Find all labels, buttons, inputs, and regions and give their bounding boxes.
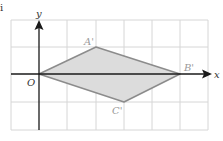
vertex-label-a-prime: A' [83, 36, 94, 47]
vertex-label-c-prime: C' [112, 105, 122, 116]
x-axis-label: x [214, 69, 220, 80]
y-axis-label: y [35, 8, 42, 19]
vertex-label-b-prime: B' [183, 62, 194, 73]
coordinate-diagram: y x O A' B' C' [0, 0, 223, 141]
origin-label: O [27, 77, 35, 88]
